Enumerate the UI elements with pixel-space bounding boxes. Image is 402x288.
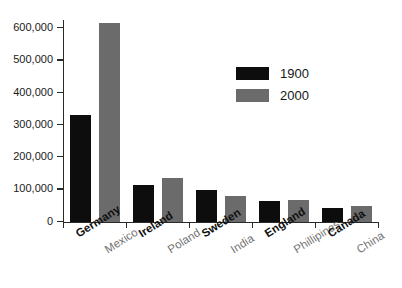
category-label-india: India: [229, 233, 256, 256]
legend-label-1900: 1900: [280, 67, 309, 80]
y-tick-label: 0: [47, 215, 53, 226]
legend-label-2000: 2000: [280, 89, 309, 102]
bar-ireland: [133, 185, 154, 222]
legend-item-2000: 2000: [236, 84, 309, 106]
x-tick: [126, 222, 127, 228]
y-tick-label: 600,000: [13, 22, 53, 33]
category-label-mexico: Mexico: [103, 227, 140, 256]
y-tick: 500,000: [57, 59, 63, 60]
y-tick: 300,000: [57, 124, 63, 125]
legend-item-1900: 1900: [236, 62, 309, 84]
x-tick: [189, 222, 190, 228]
y-tick: 400,000: [57, 92, 63, 93]
y-tick: 200,000: [57, 156, 63, 157]
bar-england: [259, 201, 280, 222]
bar-mexico: [99, 23, 120, 222]
x-tick: [252, 222, 253, 228]
y-tick-label: 500,000: [13, 54, 53, 65]
y-tick: 100,000: [57, 188, 63, 189]
chart-legend: 1900 2000: [236, 62, 309, 106]
y-tick-label: 400,000: [13, 86, 53, 97]
bar-germany: [70, 115, 91, 222]
y-tick: 600,000: [57, 27, 63, 28]
category-label-china: China: [355, 230, 387, 256]
y-tick-label: 200,000: [13, 151, 53, 162]
x-tick: [63, 222, 64, 228]
x-tick: [378, 222, 379, 228]
y-tick-label: 100,000: [13, 183, 53, 194]
bar-chart: 0100,000200,000300,000400,000500,000600,…: [0, 0, 402, 288]
legend-swatch-1900: [236, 67, 269, 80]
category-label-poland: Poland: [166, 227, 202, 256]
y-tick-label: 300,000: [13, 118, 53, 129]
plot-area: 0100,000200,000300,000400,000500,000600,…: [63, 22, 378, 222]
x-tick: [315, 222, 316, 228]
legend-swatch-2000: [236, 89, 269, 102]
bar-sweden: [196, 190, 217, 222]
